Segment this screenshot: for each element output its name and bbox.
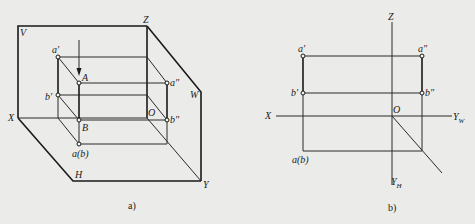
label-b-double-prime-b: b″ (425, 87, 435, 98)
label-a-double-prime: a″ (170, 77, 180, 88)
figure-b-orthographic: Z a′ a″ b′ b″ X O YW a(b) YH b) (264, 11, 466, 214)
label-b-prime-b: b′ (291, 87, 299, 98)
label-h-plane: H (74, 169, 83, 180)
label-w-plane: W (190, 89, 200, 100)
point-a-prime (56, 55, 60, 59)
point-b-double-prime (165, 118, 169, 122)
point-A (77, 81, 81, 85)
label-o-b: O (393, 104, 400, 115)
label-ab-h: a(b) (72, 148, 89, 160)
point-a-prime-b (301, 54, 305, 58)
point-a-double-prime-b (420, 54, 424, 58)
point-b-double-prime-b (420, 91, 424, 95)
label-y: Y (203, 179, 210, 190)
label-yw: YW (453, 111, 466, 125)
label-B: B (82, 122, 88, 133)
figure-stage: V Z W X O H Y a′ A a″ b′ B b″ a(b) a) (0, 0, 475, 224)
point-b-prime (56, 93, 60, 97)
point-b-prime-b (301, 91, 305, 95)
label-x-b: X (264, 110, 272, 121)
point-B (77, 118, 81, 122)
projection-lines (58, 57, 167, 144)
label-v-plane: V (20, 27, 28, 38)
view-direction-arrow (77, 40, 82, 76)
projection-diagrams: V Z W X O H Y a′ A a″ b′ B b″ a(b) a) (0, 0, 475, 224)
caption-a: a) (128, 200, 136, 212)
projection-lines-b (303, 56, 422, 151)
label-a-double-prime-b: a″ (418, 43, 428, 54)
point-a-double-prime (165, 81, 169, 85)
miter-line (392, 116, 442, 173)
caption-b: b) (388, 202, 396, 214)
y-axis (147, 118, 201, 181)
label-ab-h-b: a(b) (292, 154, 309, 166)
label-z-b: Z (388, 11, 394, 22)
label-x: X (7, 112, 15, 123)
label-a-prime-b: a′ (298, 43, 306, 54)
w-plane-outline (147, 26, 201, 181)
figure-a-pictorial: V Z W X O H Y a′ A a″ b′ B b″ a(b) a) (7, 14, 210, 212)
label-yh: YH (391, 176, 403, 190)
label-A: A (81, 72, 89, 83)
label-z: Z (143, 14, 149, 25)
label-b-prime: b′ (45, 91, 53, 102)
point-ab-h (77, 142, 81, 146)
label-a-prime: a′ (52, 44, 60, 55)
label-o: O (148, 107, 155, 118)
label-b-double-prime: b″ (170, 114, 180, 125)
